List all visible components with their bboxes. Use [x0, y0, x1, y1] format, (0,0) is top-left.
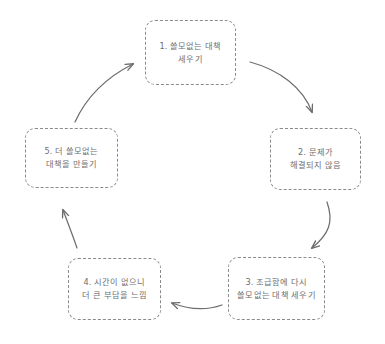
- cycle-node-4[interactable]: 4. 시간이 없으니 더 큰 부담을 느낌: [68, 258, 161, 320]
- cycle-node-3-label: 3. 조급함에 다시 쓸모없는 대책 세우기: [234, 276, 318, 301]
- arrow-4-to-5: [63, 210, 77, 248]
- cycle-diagram: 1. 쓸모없는 대책 세우기 2. 문제가 해결되지 않음 3. 조급함에 다시…: [0, 0, 385, 344]
- cycle-node-2-label: 2. 문제가 해결되지 않음: [287, 146, 344, 171]
- cycle-node-1-label: 1. 쓸모없는 대책 세우기: [156, 40, 224, 65]
- cycle-node-1[interactable]: 1. 쓸모없는 대책 세우기: [145, 20, 236, 85]
- cycle-node-3[interactable]: 3. 조급함에 다시 쓸모없는 대책 세우기: [228, 257, 325, 320]
- cycle-node-5[interactable]: 5. 더 쓸모없는 대책을 만들기: [25, 128, 118, 188]
- arrow-5-to-1: [75, 64, 133, 122]
- arrow-1-to-2: [250, 62, 312, 112]
- cycle-node-2[interactable]: 2. 문제가 해결되지 않음: [270, 128, 361, 190]
- arrow-3-to-4: [172, 303, 222, 309]
- cycle-node-4-label: 4. 시간이 없으니 더 큰 부담을 느낌: [79, 276, 150, 301]
- cycle-node-5-label: 5. 더 쓸모없는 대책을 만들기: [42, 145, 102, 170]
- arrow-2-to-3: [312, 202, 330, 248]
